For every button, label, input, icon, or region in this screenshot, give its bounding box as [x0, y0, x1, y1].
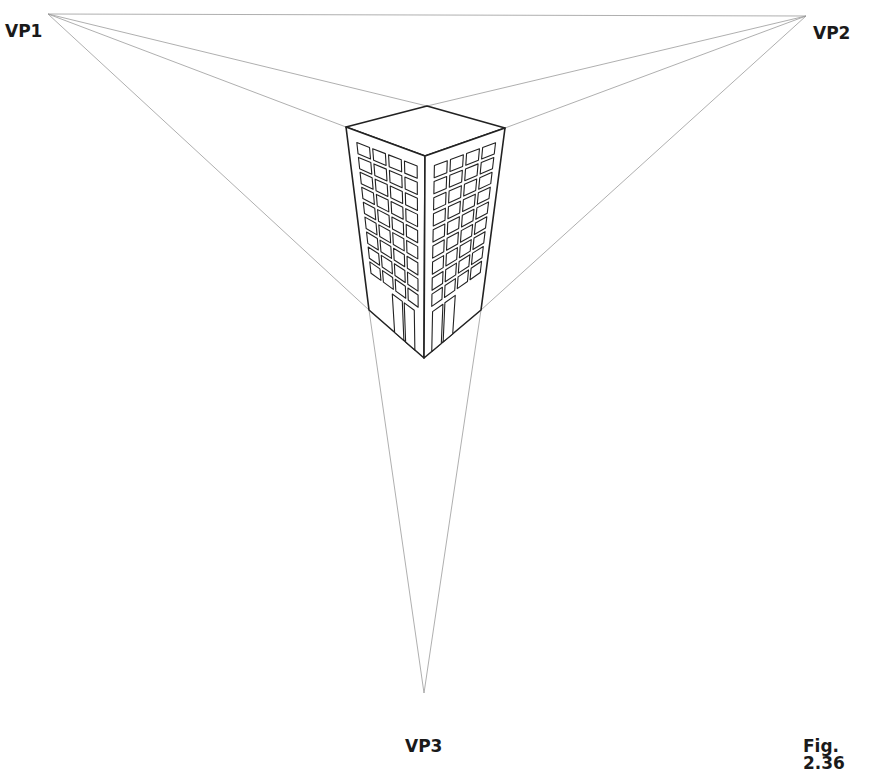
vp2-construction-line — [481, 16, 806, 310]
vp3-label: VP3 — [405, 738, 442, 755]
vp2-construction-line — [505, 16, 806, 128]
vp1-construction-line — [48, 14, 427, 106]
vp2-label: VP2 — [813, 25, 850, 42]
left-face-door — [392, 294, 404, 340]
vp2-construction-line — [427, 16, 806, 106]
horizon-line — [48, 14, 806, 16]
building — [346, 106, 505, 358]
vp1-label: VP1 — [5, 23, 42, 40]
figure-caption: Fig. 2.36 — [803, 738, 882, 772]
right-face-door — [443, 295, 455, 341]
vp3-construction-line — [369, 310, 424, 693]
vp1-construction-line — [48, 14, 346, 127]
vp3-construction-line — [424, 310, 481, 693]
vp1-construction-line — [48, 14, 369, 310]
